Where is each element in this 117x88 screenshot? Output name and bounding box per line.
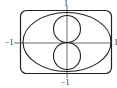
diagram-canvas bbox=[0, 0, 117, 88]
label-right: 1 bbox=[114, 39, 117, 47]
label-bottom: −1 bbox=[61, 79, 70, 87]
label-left: −1 bbox=[5, 39, 14, 47]
label-top: 1 bbox=[64, 0, 68, 8]
